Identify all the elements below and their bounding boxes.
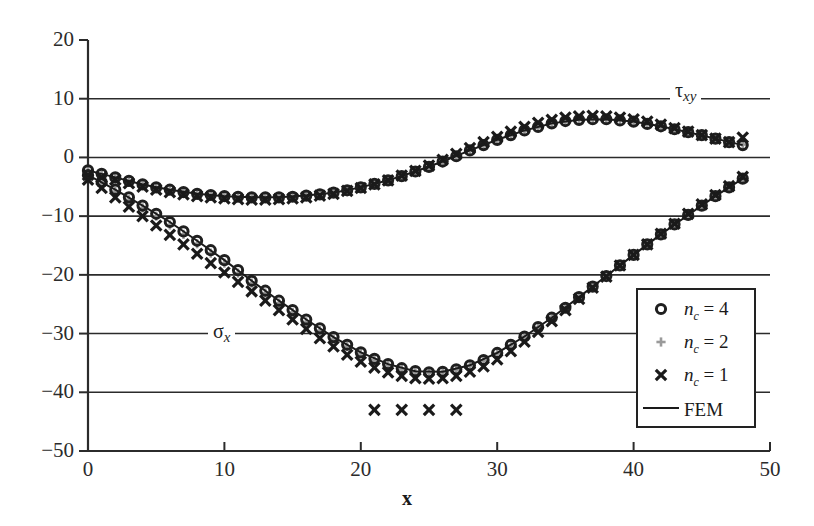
y-tick-label--20: −20 (12, 262, 74, 287)
y-tick-label-0: 0 (12, 144, 74, 169)
legend-var-value: = 4 (699, 298, 729, 319)
series-tau-xy-nc-4 (83, 115, 747, 202)
sigma-subscript: x (224, 329, 231, 345)
legend-label-2: nc = 2 (684, 331, 729, 357)
tau-xy-annotation: τxy (670, 79, 701, 105)
x-axis-title: x (0, 487, 814, 510)
fem-curve (88, 119, 743, 197)
legend: nc = 4nc = 2nc = 1FEM (636, 288, 756, 428)
legend-label-4: FEM (684, 399, 723, 421)
x-tick-label-20: 20 (331, 457, 391, 482)
legend-cross-icon (638, 364, 684, 390)
marker-circle (656, 304, 665, 313)
legend-var-symbol: n (684, 364, 694, 385)
legend-label-3: nc = 1 (684, 364, 729, 390)
legend-var-symbol: n (684, 331, 694, 352)
legend-var-symbol: n (684, 298, 694, 319)
x-tick-label-40: 40 (604, 457, 664, 482)
series-sigma-x-nc-1-outliers (369, 405, 461, 415)
chart-figure: 20100−10−20−30−40−50 01020304050 x τxy σ… (0, 0, 814, 526)
y-tick-label-10: 10 (12, 86, 74, 111)
legend-symbol-cross (656, 370, 666, 380)
tau-symbol: τ (675, 79, 683, 101)
legend-circle-icon (638, 298, 684, 324)
x-tick-label-0: 0 (58, 457, 118, 482)
x-tick-label-30: 30 (467, 457, 527, 482)
sigma-symbol: σ (213, 320, 224, 342)
series-tau-xy-fem (88, 119, 743, 197)
sigma-x-annotation: σx (208, 320, 235, 346)
legend-row-2[interactable]: nc = 2 (638, 327, 754, 361)
legend-symbol-plus (656, 337, 665, 346)
legend-label-1: nc = 4 (684, 298, 729, 324)
y-tick-label-20: 20 (12, 27, 74, 52)
legend-row-4[interactable]: FEM (638, 393, 754, 427)
x-tick-label-50: 50 (740, 457, 800, 482)
legend-row-1[interactable]: nc = 4 (638, 294, 754, 328)
x-tick-label-10: 10 (194, 457, 254, 482)
legend-plus-icon (638, 331, 684, 357)
legend-row-3[interactable]: nc = 1 (638, 360, 754, 394)
legend-symbol-circle (656, 304, 665, 313)
tau-subscript: xy (683, 88, 696, 104)
legend-line-icon (638, 397, 684, 423)
y-tick-label--30: −30 (12, 321, 74, 346)
y-tick-label--10: −10 (12, 203, 74, 228)
legend-var-value: = 2 (699, 331, 729, 352)
y-tick-label--40: −40 (12, 379, 74, 404)
legend-var-value: = 1 (699, 364, 729, 385)
